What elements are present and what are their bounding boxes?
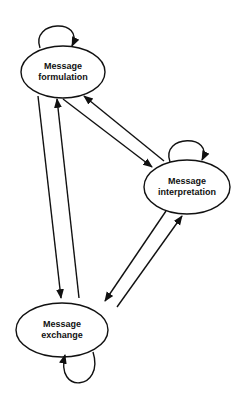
edge-formulation-to-exchange [38, 96, 61, 298]
edge-formulation-to-interpretation [63, 99, 152, 167]
label-interpretation-line2: interpretation [158, 187, 216, 198]
label-interpretation: Message interpretation [158, 176, 216, 198]
label-formulation: Message formulation [38, 61, 88, 83]
edge-interpretation-to-exchange [105, 211, 166, 301]
self-loop-interpretation [169, 141, 204, 162]
label-exchange-line1: Message [41, 319, 83, 330]
edge-interpretation-to-formulation [84, 96, 164, 161]
edge-exchange-to-interpretation [117, 216, 182, 307]
label-exchange-line2: exchange [41, 330, 83, 341]
label-formulation-line1: Message [38, 61, 88, 72]
label-formulation-line2: formulation [38, 72, 88, 83]
edge-exchange-to-formulation [57, 99, 79, 298]
label-exchange: Message exchange [41, 319, 83, 341]
label-interpretation-line1: Message [158, 176, 216, 187]
diagram-canvas [0, 0, 248, 397]
self-loop-formulation [39, 26, 74, 48]
